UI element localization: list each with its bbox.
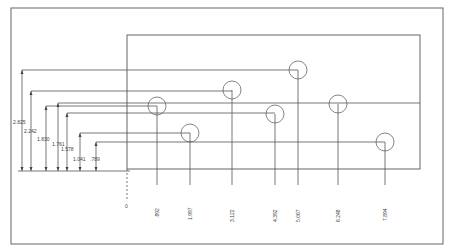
x-dim-label: 5.067 bbox=[295, 209, 301, 222]
x-dim-label: .892 bbox=[154, 208, 160, 218]
x-dim-label: 4.392 bbox=[272, 209, 278, 222]
y-dim-label: 2.242 bbox=[24, 128, 37, 134]
y-dim-label: 1.578 bbox=[61, 146, 74, 152]
y-dim-label: 1.041 bbox=[73, 156, 86, 162]
origin-label: 0 bbox=[125, 203, 128, 209]
x-dim-label: 6.248 bbox=[335, 209, 341, 222]
drawing-canvas: 0 2.825 5.067 2.242 3.122 1.830 .892 1.7… bbox=[0, 0, 450, 252]
hole-group-7: .789 7.894 bbox=[90, 133, 394, 221]
hole-group-6: 1.041 1.997 bbox=[73, 124, 199, 220]
y-dim-label: 1.830 bbox=[37, 136, 50, 142]
outer-frame bbox=[11, 8, 443, 244]
part-outline bbox=[127, 35, 420, 169]
hole-group-3: 1.830 .892 bbox=[37, 97, 166, 218]
x-dim-label: 1.997 bbox=[187, 207, 193, 220]
y-dim-label: 2.825 bbox=[13, 119, 26, 125]
x-dim-label: 3.122 bbox=[229, 209, 235, 222]
hole-group-5: 1.578 4.392 bbox=[61, 105, 284, 222]
y-dim-label: .789 bbox=[90, 156, 100, 162]
x-dim-label: 7.894 bbox=[382, 208, 388, 221]
hole-group-4: 1.761 6.248 bbox=[52, 95, 420, 222]
hole-group-2: 2.242 3.122 bbox=[24, 81, 241, 222]
